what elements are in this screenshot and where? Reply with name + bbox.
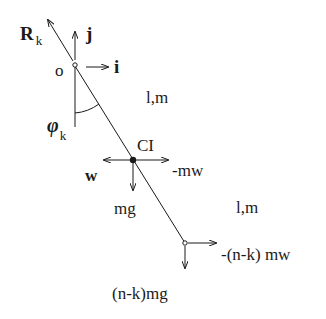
lower-segment-label: l,m <box>236 198 258 217</box>
i-label: i <box>114 56 119 77</box>
tail-point <box>183 241 187 245</box>
tail-force-label: -(n-k) mw <box>221 245 291 264</box>
center-point <box>130 157 136 163</box>
j-label: j <box>85 23 92 44</box>
angle-label: φk <box>47 114 67 143</box>
origin-label: o <box>55 61 64 80</box>
pivot-point <box>73 63 77 67</box>
gravity-label: mg <box>114 199 136 218</box>
upper-segment-label: l,m <box>146 88 168 107</box>
angle-arc <box>75 104 99 113</box>
diagram-svg: Rk j i o φk l,m CI w -mw mg l,m -(n-k) m… <box>0 0 326 319</box>
diagram-canvas: Rk j i o φk l,m CI w -mw mg l,m -(n-k) m… <box>0 0 326 319</box>
center-label: CI <box>137 136 154 155</box>
inertia-label: -mw <box>172 161 204 180</box>
reaction-label: Rk <box>20 23 43 48</box>
reaction-arrow <box>48 20 73 61</box>
tail-gravity-label: (n-k)mg <box>112 284 168 303</box>
w-label: w <box>85 166 98 185</box>
